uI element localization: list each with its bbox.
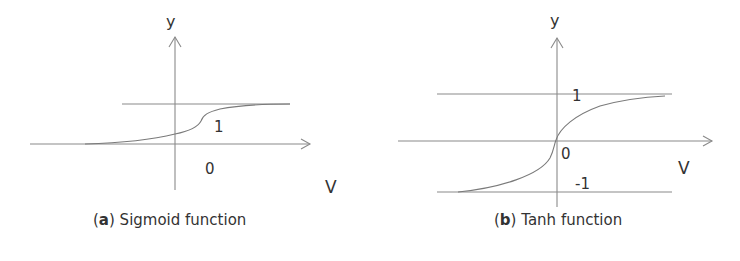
sigmoid-caption-text: Sigmoid function xyxy=(115,211,247,229)
sigmoid-y-label: y xyxy=(166,12,175,31)
tanh-y-label: y xyxy=(550,11,559,30)
sigmoid-x-label: V xyxy=(325,177,337,197)
tanh-lower-label: -1 xyxy=(575,175,590,193)
tanh-caption-text: Tanh function xyxy=(516,211,622,229)
tanh-panel: y 1 0 V -1 xyxy=(398,11,712,207)
sigmoid-curve xyxy=(85,104,290,144)
tanh-caption: (b) Tanh function xyxy=(494,211,622,229)
tanh-upper-label: 1 xyxy=(572,87,582,105)
tanh-curve xyxy=(458,96,665,192)
sigmoid-level-label: 1 xyxy=(214,118,224,136)
sigmoid-caption: (a) Sigmoid function xyxy=(93,211,246,229)
sigmoid-origin-label: 0 xyxy=(205,160,215,178)
sigmoid-panel: y 1 0 V xyxy=(30,12,337,197)
sigmoid-caption-letter: a xyxy=(99,211,109,229)
tanh-origin-label: 0 xyxy=(561,145,571,163)
tanh-caption-letter: b xyxy=(500,211,511,229)
tanh-x-label: V xyxy=(678,158,690,178)
